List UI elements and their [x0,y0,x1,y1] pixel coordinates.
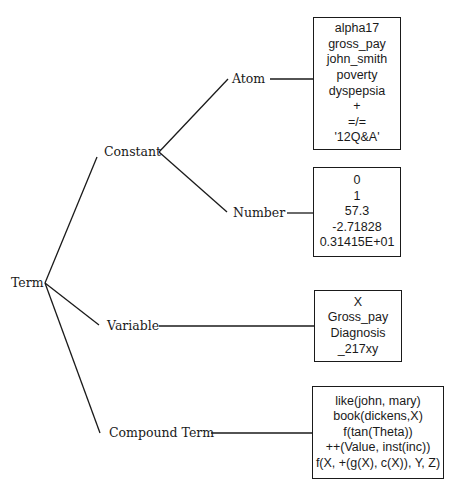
example-item: poverty [337,68,378,84]
example-item: 0 [354,173,361,189]
node-number: Number [233,207,285,220]
example-item: book(dickens,X) [333,409,423,425]
example-item: alpha17 [335,21,380,37]
example-item: Gross_pay [328,310,388,326]
atom-examples-box: alpha17 gross_pay john_smith poverty dys… [313,17,401,150]
example-item: f(tan(Theta)) [343,425,412,441]
example-item: _217xy [338,342,378,358]
edge-constant-number [159,152,227,212]
node-variable: Variable [107,320,159,333]
example-item: + [353,99,360,115]
node-compound-term: Compound Term [109,427,214,440]
example-item: john_smith [327,52,387,68]
example-item: 0.31415E+01 [320,235,395,251]
term-taxonomy-diagram: Term Constant Atom Number Variable Compo… [0,0,454,491]
example-item: =/= [348,115,366,131]
example-item: -2.71828 [332,220,381,236]
compound-term-examples-box: like(john, mary) book(dickens,X) f(tan(T… [312,386,444,479]
example-item: dyspepsia [329,84,385,100]
edge-constant-atom [159,79,228,152]
node-term: Term [11,277,44,290]
edge-term-compound [45,283,100,433]
example-item: X [354,295,362,311]
edge-term-constant [45,157,97,283]
example-item: gross_pay [328,37,386,53]
example-item: f(X, +(g(X), c(X)), Y, Z) [316,456,440,472]
example-item: ++(Value, inst(inc)) [326,440,431,456]
example-item: 1 [354,189,361,205]
variable-examples-box: X Gross_pay Diagnosis _217xy [314,290,402,362]
example-item: 57.3 [345,204,369,220]
example-item: '12Q&A' [334,130,379,146]
example-item: Diagnosis [331,326,386,342]
number-examples-box: 0 1 57.3 -2.71828 0.31415E+01 [313,167,401,257]
node-constant: Constant [104,146,161,159]
node-atom: Atom [232,73,265,86]
example-item: like(john, mary) [335,394,420,410]
